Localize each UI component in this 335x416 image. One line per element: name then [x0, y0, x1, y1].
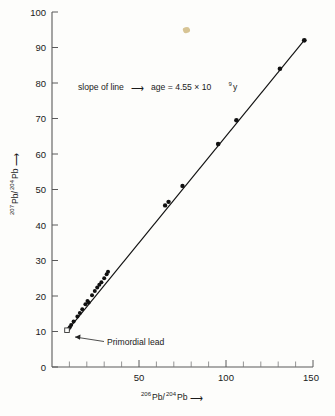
data-point	[93, 289, 97, 293]
y-axis-label-sup-right: 204	[9, 179, 15, 190]
x-axis-label-arrow: ⟶	[190, 393, 203, 403]
x-axis-label-sup-right: 204	[166, 391, 177, 397]
y-ticklabel-70: 70	[35, 113, 46, 124]
primordial-lead-leader	[75, 335, 104, 342]
primordial-lead-label: Primordial lead	[107, 337, 165, 347]
y-ticklabel-80: 80	[35, 78, 46, 89]
x-axis-label: 206 Pb/ 204 Pb ⟶	[141, 391, 203, 403]
x-ticklabel-150: 150	[303, 372, 319, 383]
data-point	[75, 315, 79, 319]
y-ticklabel-90: 90	[35, 42, 46, 53]
x-axis-label-base-left: Pb/	[152, 392, 166, 402]
data-point	[106, 270, 110, 274]
y-axis-label-arrow: ⟶	[11, 153, 21, 166]
y-ticklabel-50: 50	[35, 184, 46, 195]
isochron-plot-svg: 0 10 20 30 40 50 60 70 80 90 100	[0, 0, 335, 416]
y-axis-label-base-right: Pb	[10, 168, 20, 179]
y-ticklabel-40: 40	[35, 220, 46, 231]
x-axis-label-sup-left: 206	[141, 391, 152, 397]
y-ticklabel-10: 10	[35, 326, 46, 337]
y-axis: 0 10 20 30 40 50 60 70 80 90 100	[30, 7, 58, 373]
data-point	[102, 276, 106, 280]
slope-annotation-arrow: ⟶	[131, 83, 144, 93]
x-ticklabel-50: 50	[134, 372, 145, 383]
x-axis-label-base-right: Pb	[177, 392, 188, 402]
data-point	[69, 323, 73, 327]
data-point	[87, 300, 91, 304]
slope-annotation-mid: age = 4.55 × 10	[151, 82, 211, 92]
data-point	[234, 118, 239, 123]
data-point	[216, 142, 221, 147]
data-point	[163, 203, 167, 207]
data-point	[166, 200, 170, 204]
data-point	[78, 311, 82, 315]
y-axis-label-base-left: Pb/	[10, 190, 20, 204]
data-point	[72, 320, 76, 324]
data-point	[180, 184, 184, 188]
y-axis-label-sup-left: 207	[9, 204, 15, 215]
slope-annotation-suffix: y	[233, 82, 238, 92]
isochron-figure: 0 10 20 30 40 50 60 70 80 90 100	[0, 0, 335, 416]
data-point	[278, 66, 283, 71]
x-ticklabel-100: 100	[218, 372, 234, 383]
primordial-lead-marker	[65, 328, 70, 333]
slope-annotation: slope of line ⟶ age = 4.55 × 10 9 y	[78, 81, 238, 93]
slope-annotation-exponent: 9	[229, 81, 233, 87]
data-point	[80, 307, 84, 311]
y-ticklabel-60: 60	[35, 149, 46, 160]
data-point	[90, 293, 94, 297]
y-ticklabel-100: 100	[30, 7, 46, 18]
y-ticklabel-20: 20	[35, 291, 46, 302]
y-axis-label: 207 Pb/ 204 Pb ⟶	[9, 153, 21, 215]
slope-annotation-prefix: slope of line	[78, 82, 124, 92]
data-point	[99, 280, 103, 284]
x-axis: 50 100 150	[52, 360, 319, 383]
y-ticklabel-0: 0	[41, 362, 46, 373]
y-ticklabel-30: 30	[35, 255, 46, 266]
data-point	[302, 38, 307, 43]
